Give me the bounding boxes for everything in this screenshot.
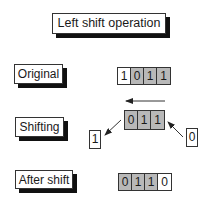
after-shift-register: 0 1 1 0: [118, 173, 172, 191]
after-bit-3: 0: [158, 174, 171, 190]
after-bit-2: 1: [145, 174, 158, 190]
shift-out-arrow-icon: [105, 120, 121, 135]
after-bit-1: 1: [132, 174, 145, 190]
after-shift-label: After shift: [15, 170, 73, 189]
shift-in-arrow-icon: [168, 122, 183, 137]
after-bit-0: 0: [119, 174, 132, 190]
